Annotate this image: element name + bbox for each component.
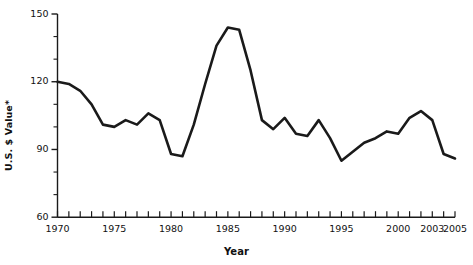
y-tick-label: 120 [17,75,49,86]
x-tick-label: 1985 [206,223,250,234]
line-chart: U.S. $ Value* Year 6090120150 1970197519… [0,0,473,265]
y-axis-ticks [52,14,58,217]
x-tick-label: 1990 [263,223,307,234]
y-tick-label: 60 [17,211,49,222]
x-tick-label: 1995 [319,223,363,234]
x-tick-label: 1970 [36,223,80,234]
axis-lines [58,14,456,218]
x-tick-label: 2005 [433,223,473,234]
data-series-line [58,28,456,161]
x-axis-ticks [58,211,456,217]
x-tick-label: 1980 [149,223,193,234]
y-tick-label: 90 [17,143,49,154]
y-tick-label: 150 [17,8,49,19]
x-tick-label: 1975 [92,223,136,234]
